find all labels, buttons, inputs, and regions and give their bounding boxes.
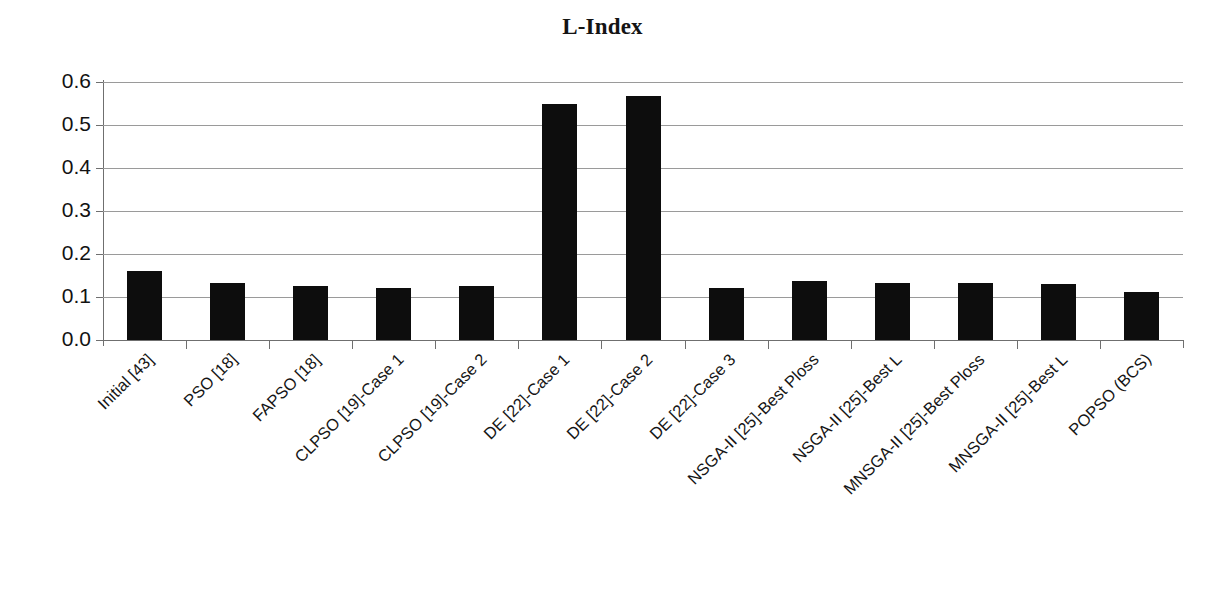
x-axis-category-label: PSO [18] — [180, 350, 241, 411]
x-axis-tick — [601, 340, 602, 349]
bar — [376, 288, 411, 340]
x-axis-category-label: POPSO (BCS) — [1065, 350, 1155, 440]
bar — [459, 286, 494, 340]
x-axis-category-label: FAPSO [18] — [249, 350, 324, 425]
bar — [127, 271, 162, 340]
bar — [958, 283, 993, 340]
plot-area — [103, 82, 1183, 340]
x-axis-tick — [1100, 340, 1101, 349]
bar — [709, 288, 744, 340]
x-axis-tick — [768, 340, 769, 349]
x-axis-category-label: MNSGA-II [25]-Best Ploss — [840, 350, 988, 498]
gridline — [103, 82, 1183, 83]
bar — [875, 283, 910, 340]
y-axis-tick-label: 0.4 — [27, 155, 91, 179]
bar — [792, 281, 827, 340]
y-axis-tick-label: 0.0 — [27, 327, 91, 351]
chart-title: L-Index — [0, 14, 1205, 40]
bar — [1124, 292, 1159, 340]
x-axis-tick — [269, 340, 270, 349]
x-axis-category-label: DE [22]-Case 1 — [480, 350, 573, 443]
x-axis-category-label: DE [22]-Case 2 — [563, 350, 656, 443]
x-axis-category-label: Initial [43] — [94, 350, 157, 413]
x-axis-tick — [518, 340, 519, 349]
bar — [542, 104, 577, 340]
x-axis-category-label: DE [22]-Case 3 — [646, 350, 739, 443]
x-axis-tick — [1017, 340, 1018, 349]
x-axis-tick — [934, 340, 935, 349]
bar — [1041, 284, 1076, 340]
x-axis-tick — [352, 340, 353, 349]
y-axis-tick-label: 0.1 — [27, 284, 91, 308]
l-index-bar-chart: L-Index 0.60.50.40.30.20.10.0 Initial [4… — [0, 0, 1205, 592]
y-axis-tick-label: 0.5 — [27, 112, 91, 136]
x-axis-end-cap — [1183, 340, 1184, 348]
x-axis-tick — [851, 340, 852, 349]
bar — [210, 283, 245, 340]
bar — [293, 286, 328, 340]
x-axis-tick — [435, 340, 436, 349]
y-axis-tick-label: 0.3 — [27, 198, 91, 222]
x-axis-tick — [186, 340, 187, 349]
y-axis-tick-label: 0.2 — [27, 241, 91, 265]
gridline — [103, 340, 1183, 341]
bar — [626, 96, 661, 340]
y-axis-tick-label: 0.6 — [27, 69, 91, 93]
x-axis-tick — [685, 340, 686, 349]
